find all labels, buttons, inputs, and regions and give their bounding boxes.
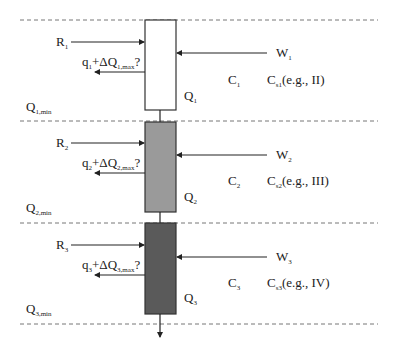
- label-c2: C2: [228, 173, 241, 190]
- label-w3: W3: [276, 249, 292, 266]
- label-r3: R3: [56, 237, 69, 254]
- label-r1: R1: [56, 34, 69, 51]
- label-q3-min: Q3,min: [26, 301, 52, 318]
- stage-block-1: [145, 20, 176, 110]
- label-cs1: Cs1(e.g., II): [267, 72, 325, 89]
- label-w1: W1: [276, 45, 292, 62]
- label-r2: R2: [56, 135, 69, 152]
- reservoir-cascade-diagram: R1 q1+ΔQ1,max? W1 C1 Cs1(e.g., II) Q1 Q1…: [0, 0, 395, 350]
- label-q2-storage: Q2: [184, 189, 197, 206]
- label-cs3: Cs3(e.g., IV): [267, 275, 330, 292]
- label-q3-storage: Q3: [184, 290, 197, 307]
- label-c1: C1: [228, 72, 241, 89]
- stage-block-2: [145, 122, 176, 212]
- label-q1-min: Q1,min: [26, 99, 52, 116]
- label-q1-expression: q1+ΔQ1,max?: [82, 54, 140, 71]
- stage-1: R1 q1+ΔQ1,max? W1 C1 Cs1(e.g., II) Q1 Q1…: [26, 20, 325, 131]
- label-q2-expression: q2+ΔQ2,max?: [82, 155, 140, 172]
- label-w2: W2: [276, 147, 292, 164]
- label-c3: C3: [228, 275, 241, 292]
- stage-3: R3 q3+ΔQ3,max? W3 C3 Cs3(e.g., IV) Q3 Q3…: [26, 223, 330, 337]
- label-cs2: Cs2(e.g., III): [267, 173, 329, 190]
- label-q2-min: Q2,min: [26, 200, 52, 217]
- stage-block-3: [145, 223, 176, 314]
- stage-2: R2 q2+ΔQ2,max? W2 C2 Cs2(e.g., III) Q2 Q…: [26, 122, 329, 233]
- label-q1-storage: Q1: [184, 88, 197, 105]
- label-q3-expression: q3+ΔQ3,max?: [82, 257, 140, 274]
